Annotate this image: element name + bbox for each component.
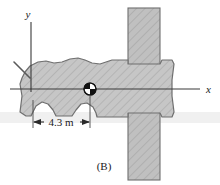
y-axis-label: y: [25, 8, 31, 20]
dimension-label: 4.3 m: [48, 116, 74, 128]
physics-figure-diagram: x y 4.3 m (B): [0, 0, 220, 185]
x-axis-label: x: [205, 83, 211, 95]
center-of-mass-marker: [84, 83, 96, 95]
figure-container: x y 4.3 m (B): [0, 0, 220, 185]
figure-caption: (B): [97, 160, 112, 173]
